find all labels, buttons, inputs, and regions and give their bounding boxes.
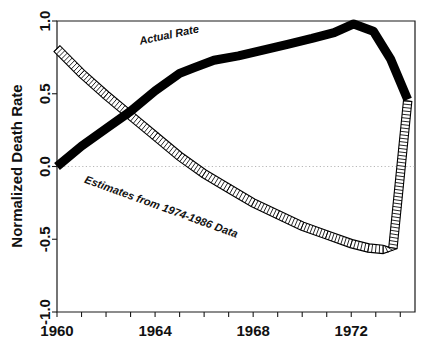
x-tick-label: 1972 [335, 322, 368, 339]
axis-frame [57, 21, 415, 312]
x-axis-tick-labels: 1960196419681972 [40, 322, 368, 339]
x-tick-label: 1964 [138, 322, 172, 339]
y-tick-label: 1.0 [36, 11, 53, 32]
normalized-death-rate-chart: 1.00.50.0-0.5-1.0 1960196419681972 Norma… [0, 0, 437, 352]
x-axis-ticks [57, 312, 400, 317]
y-axis-ticks [52, 21, 57, 312]
x-tick-label: 1960 [40, 322, 73, 339]
y-tick-label: 0.0 [36, 156, 53, 177]
estimates-band-outline [54, 46, 412, 254]
y-axis-title: Normalized Death Rate [8, 84, 25, 247]
plot-frame [57, 21, 415, 312]
y-tick-label: -0.5 [36, 226, 53, 252]
y-tick-label: 0.5 [36, 83, 53, 104]
x-tick-label: 1968 [236, 322, 269, 339]
y-axis-tick-labels: 1.00.50.0-0.5-1.0 [36, 11, 53, 325]
y-axis-title-text: Normalized Death Rate [8, 84, 25, 247]
series-annotation: Actual Rate [137, 22, 200, 47]
chart-container: 1.00.50.0-0.5-1.0 1960196419681972 Norma… [0, 0, 437, 352]
series-estimates-band [54, 46, 412, 254]
